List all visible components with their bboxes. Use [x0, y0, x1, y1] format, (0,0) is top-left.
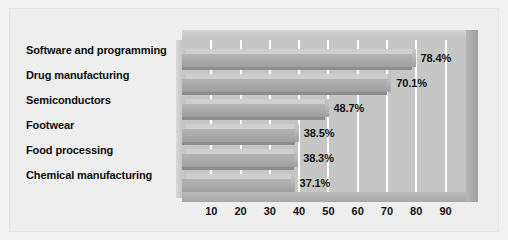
bar	[182, 154, 294, 167]
bar-row	[182, 99, 331, 124]
bar	[182, 129, 295, 142]
plot-floor	[182, 192, 466, 202]
plot-left-bevel	[176, 40, 182, 198]
value-label-3: 38.5%	[304, 127, 335, 139]
x-tick-20: 20	[230, 205, 252, 217]
x-axis-tick-labels: 102030405060708090	[182, 205, 482, 223]
x-tick-80: 80	[405, 205, 427, 217]
x-tick-60: 60	[347, 205, 369, 217]
value-label-2: 48.7%	[334, 102, 365, 114]
bar-row	[182, 74, 393, 99]
bar	[182, 54, 412, 67]
bar	[182, 179, 291, 192]
plot-right-wall	[466, 30, 478, 202]
bar-row	[182, 149, 300, 174]
bar-end-cap	[387, 74, 391, 92]
category-label-5: Chemical manufacturing	[26, 169, 194, 181]
bar	[182, 79, 387, 92]
value-label-0: 78.4%	[421, 52, 452, 64]
x-tick-50: 50	[317, 205, 339, 217]
category-label-4: Food processing	[26, 144, 194, 156]
bar-shadow	[182, 142, 295, 145]
x-tick-90: 90	[435, 205, 457, 217]
category-label-0: Software and programming	[26, 44, 194, 56]
value-label-1: 70.1%	[396, 77, 427, 89]
x-tick-30: 30	[259, 205, 281, 217]
bar	[182, 104, 325, 117]
bar-end-cap	[291, 174, 295, 192]
x-tick-10: 10	[200, 205, 222, 217]
x-tick-40: 40	[288, 205, 310, 217]
bar-row	[182, 124, 301, 149]
bar-end-cap	[325, 99, 329, 117]
plot-top-face	[182, 30, 466, 40]
bar-end-cap	[295, 124, 299, 142]
x-tick-70: 70	[376, 205, 398, 217]
bar-end-cap	[294, 149, 298, 167]
bar-shadow	[182, 92, 387, 95]
bar-shadow	[182, 67, 412, 70]
category-label-3: Footwear	[26, 119, 194, 131]
category-label-1: Drug manufacturing	[26, 69, 194, 81]
bar-end-cap	[412, 49, 416, 67]
bar-shadow	[182, 117, 325, 120]
category-axis-labels: Software and programming Drug manufactur…	[26, 30, 194, 202]
value-label-5: 37.1%	[300, 177, 331, 189]
value-label-4: 38.3%	[303, 152, 334, 164]
bar-shadow	[182, 167, 294, 170]
bar-row	[182, 49, 418, 74]
category-label-2: Semiconductors	[26, 94, 194, 106]
chart-figure: Software and programming Drug manufactur…	[0, 0, 508, 240]
